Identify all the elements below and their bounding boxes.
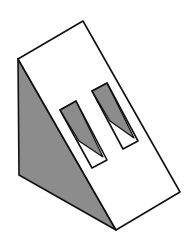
wedge-diagram (0, 0, 190, 237)
diagram-canvas: Triangular prism (wedge) with two rectan… (0, 0, 190, 237)
